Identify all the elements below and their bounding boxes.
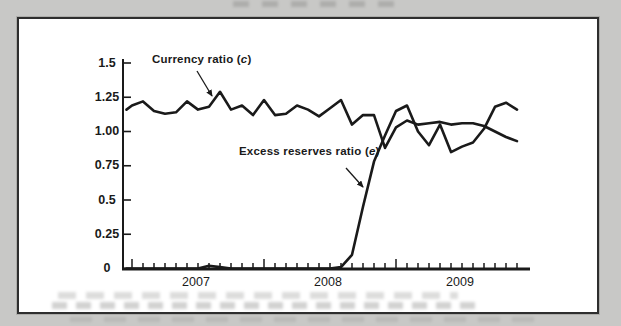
y-axis-tick-label: 1.00 <box>90 124 124 139</box>
excess-reserves-annotation: Excess reserves ratio (e) <box>239 145 380 157</box>
y-axis-tick-label: 1.5 <box>90 56 124 71</box>
currency-ratio-annotation: Currency ratio (c) <box>152 53 251 65</box>
y-axis-tick-label: 0.25 <box>90 227 124 242</box>
x-axis-year-label: 2008 <box>304 275 352 289</box>
y-axis-tick-label: 0.5 <box>90 193 124 208</box>
chart-labels-layer: 1.51.251.000.750.50.250200720082009Curre… <box>0 0 621 326</box>
x-axis-year-label: 2009 <box>436 275 484 289</box>
y-axis-tick-label: 0.75 <box>90 158 124 173</box>
y-axis-tick-label: 0 <box>90 261 124 276</box>
x-axis-year-label: 2007 <box>172 275 220 289</box>
scanned-page: 1.51.251.000.750.50.250200720082009Curre… <box>0 0 621 326</box>
y-axis-tick-label: 1.25 <box>90 90 124 105</box>
